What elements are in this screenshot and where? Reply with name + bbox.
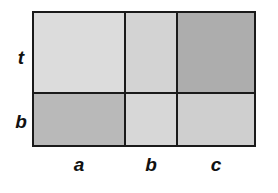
cell-t-a — [34, 13, 125, 93]
row-label-b: b — [15, 112, 27, 131]
divider-vertical-1 — [124, 13, 126, 145]
column-label-b: b — [145, 155, 157, 174]
column-label-c: c — [211, 155, 222, 174]
divider-horizontal — [34, 92, 254, 94]
area-grid — [32, 11, 256, 147]
cell-b-b — [125, 93, 178, 145]
cell-t-b — [125, 13, 178, 93]
divider-vertical-2 — [176, 13, 178, 145]
column-label-a: a — [74, 155, 85, 174]
cell-b-c — [178, 93, 254, 145]
cell-t-c — [178, 13, 254, 93]
row-label-t: t — [18, 48, 24, 67]
cell-b-a — [34, 93, 125, 145]
